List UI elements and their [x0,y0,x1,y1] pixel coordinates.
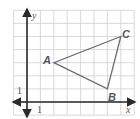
coordinate-plane-svg: y x 1 1 A B C [0,0,140,119]
vertex-label-c: C [122,28,131,40]
y-axis-label: y [31,10,37,21]
x-tick-label: 1 [37,104,42,115]
y-tick-label: 1 [17,85,22,96]
vertex-label-b: B [108,91,116,103]
grid [14,10,135,115]
coordinate-plane: y x 1 1 A B C [0,0,140,119]
vertex-label-a: A [42,54,51,66]
x-axis-label: x [125,104,131,115]
